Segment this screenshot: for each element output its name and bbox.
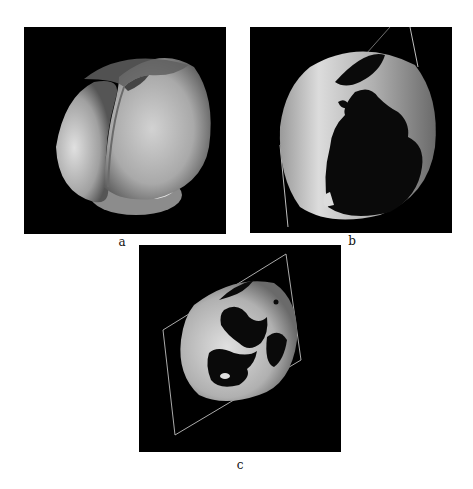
heart-surface-render-a — [24, 27, 226, 234]
panel-a-image — [24, 27, 226, 234]
heart-surface-render-b — [250, 27, 452, 233]
panel-b-label: b — [342, 235, 362, 247]
panel-b-image — [250, 27, 452, 233]
heart-surface-render-c — [139, 245, 341, 452]
panel-c-image — [139, 245, 341, 452]
panel-a-label: a — [112, 236, 132, 248]
panel-c-label: c — [230, 459, 250, 471]
